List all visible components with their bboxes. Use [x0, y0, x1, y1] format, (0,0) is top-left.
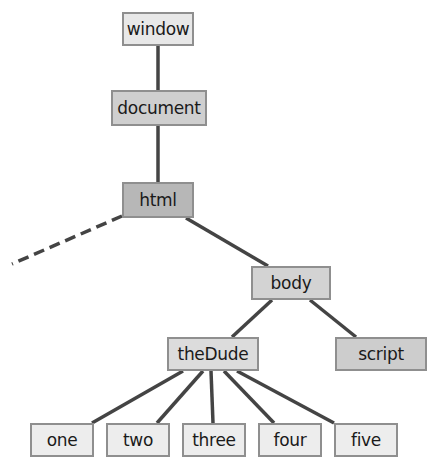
node-label: theDude: [178, 344, 249, 364]
node-three: three: [182, 423, 246, 457]
node-five: five: [334, 423, 398, 457]
edge-body-thedude: [232, 300, 272, 337]
dom-tree-diagram: window document html body theDude script…: [0, 0, 438, 470]
node-label: three: [192, 430, 235, 450]
node-label: document: [117, 98, 200, 118]
node-label: window: [127, 19, 190, 39]
node-label: script: [358, 344, 404, 364]
node-label: two: [123, 430, 153, 450]
tree-edges: [0, 0, 438, 470]
node-label: one: [47, 430, 78, 450]
edge-thedude-two: [157, 371, 203, 423]
node-label: four: [274, 430, 307, 450]
edge-thedude-three: [211, 371, 213, 423]
node-thedude: theDude: [167, 337, 259, 371]
edge-html-body: [186, 218, 268, 266]
edge-thedude-one: [92, 371, 183, 423]
node-document: document: [111, 90, 207, 126]
node-four: four: [258, 423, 322, 457]
node-label: five: [351, 430, 381, 450]
node-body: body: [251, 266, 331, 300]
node-label: html: [139, 190, 177, 210]
node-one: one: [30, 423, 94, 457]
node-script: script: [335, 337, 427, 371]
edge-body-script: [310, 300, 356, 337]
edge-html-offscreen: [12, 216, 122, 264]
edge-thedude-five: [237, 371, 334, 423]
node-html: html: [122, 182, 194, 218]
node-window: window: [122, 12, 194, 46]
node-label: body: [271, 273, 312, 293]
node-two: two: [106, 423, 170, 457]
